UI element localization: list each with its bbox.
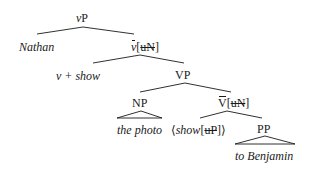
V-bar-feature: uN	[231, 96, 246, 110]
tree-branches	[0, 0, 312, 171]
node-to-benjamin: to Benjamin	[235, 150, 293, 162]
node-vp-root: vP	[76, 12, 88, 24]
trace-feature: uP	[204, 123, 217, 137]
node-v-bar: v[uN]	[131, 41, 159, 53]
node-the-photo: the photo	[117, 124, 162, 136]
trace-word: show	[176, 123, 201, 137]
trace-angle-close: ⟩	[221, 123, 226, 137]
v-bar-feature: uN	[140, 40, 155, 54]
node-V-bar: V[uN]	[218, 97, 249, 109]
v-bar-bracket-close: ]	[155, 40, 159, 54]
V-bar-bracket-close: ]	[245, 96, 249, 110]
V-bar-category: V	[218, 97, 227, 109]
v-bar-category: v	[131, 41, 136, 53]
node-v-plus-show: v + show	[56, 70, 100, 82]
root-suffix: P	[81, 11, 88, 25]
node-nathan: Nathan	[19, 41, 54, 53]
node-show-trace: ⟨show[uP]⟩	[171, 124, 226, 136]
node-VP: VP	[175, 69, 190, 81]
node-NP: NP	[132, 97, 147, 109]
node-PP: PP	[257, 123, 270, 135]
